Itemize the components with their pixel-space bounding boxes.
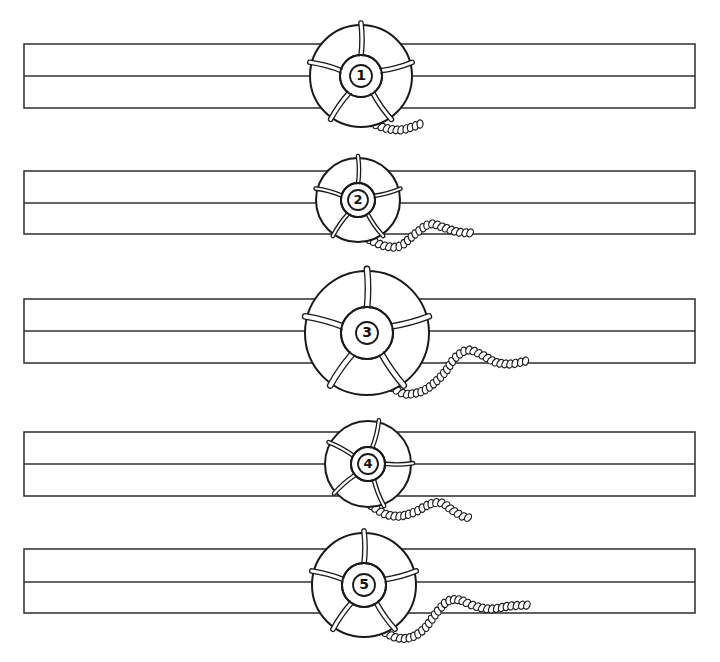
number-badge bbox=[348, 190, 368, 210]
number-badge bbox=[356, 322, 378, 344]
lifebuoy-1 bbox=[310, 23, 412, 127]
rings-layer bbox=[305, 23, 429, 637]
lifebuoy-illustration bbox=[0, 0, 720, 662]
number-badge bbox=[358, 454, 378, 474]
lifebuoy-5 bbox=[312, 531, 416, 637]
number-badge bbox=[350, 65, 372, 87]
lifebuoy-2 bbox=[316, 156, 401, 242]
number-badge bbox=[353, 574, 375, 596]
lifebuoy-3 bbox=[305, 269, 429, 395]
worksheet-canvas: 1 2 3 4 5 bbox=[0, 0, 720, 662]
